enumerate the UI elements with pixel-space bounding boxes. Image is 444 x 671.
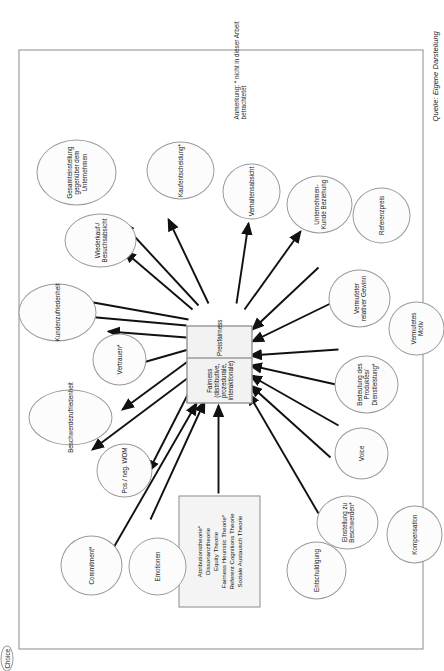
- figure-canvas: Attributionstheorie* Dissonanztheorie Eq…: [0, 0, 444, 671]
- node-kundenzufriedenheit: Kundenzufriedenheit: [18, 283, 96, 341]
- node-referenzpreis: Referenzpreis: [352, 187, 410, 243]
- node-verhaltensabsicht: Verhaltensabsicht: [222, 163, 280, 219]
- node-entschuldigung-main: Entschuldigung: [286, 541, 346, 599]
- rotated-diagram-layer: Attributionstheorie* Dissonanztheorie Eq…: [0, 0, 444, 671]
- theory-box: Attributionstheorie* Dissonanztheorie Eq…: [178, 495, 260, 607]
- figure-note: Anmerkung: * nicht in dieser Arbeit betr…: [232, 0, 246, 119]
- node-emotionen: Emotionen: [128, 537, 186, 595]
- theory-line-2: Equity Theorie: [211, 513, 219, 589]
- node-wom: Pos./ neg. WOM: [96, 443, 152, 497]
- node-choice: Choice: [0, 645, 13, 671]
- node-vermutetes-motiv: Vermutetes Motiv: [388, 301, 444, 355]
- node-wiederkauf-besuchsabsicht: Wiederkauf-/ Besuchsabsicht: [64, 213, 136, 267]
- node-gesamteinstellung: Gesamteinstellung gegenüber dem Unterneh…: [36, 139, 116, 205]
- theory-line-1: Dissonanztheorie: [203, 513, 211, 589]
- node-bedeutung-produkt: Bedeutung des Produktes/ Dienstleistung*: [334, 355, 398, 413]
- center-construct-box: Fairness (distributive, prozedurale, int…: [186, 325, 252, 403]
- theory-line-3: Fairness Heuristic Theorie*: [219, 513, 227, 589]
- node-einstellung-zu-beschwerden: Einstellung zu Beschwerden*: [316, 495, 378, 549]
- node-kaufentscheidung: Kaufentscheidung*: [146, 141, 214, 199]
- center-cell-preisfairness: Preisfairness: [187, 317, 251, 357]
- node-kompensation: Kompensation: [386, 505, 442, 563]
- node-vermuteter-relativer-gewinn: Vermuteter relativer Gewinn: [328, 269, 390, 327]
- node-beschwerdezufriedenheit: Beschwerdezufriedenheit: [28, 389, 112, 445]
- node-vertrauen: Vertrauen*: [92, 333, 146, 385]
- node-unternehmen-kunde-beziehung: Unternehmen-Kunde Beziehung: [286, 175, 352, 233]
- center-cell-fairness: Fairness (distributive, prozedurale, int…: [187, 357, 251, 402]
- node-commitment: Commitment*: [60, 535, 122, 595]
- theory-line-0: Attributionstheorie*: [195, 513, 203, 589]
- theory-line-4: Referent Cognitions Theorie: [227, 513, 235, 589]
- node-voice: Voice: [334, 427, 388, 479]
- theory-line-5: Soziale Austausch Theorie: [235, 513, 243, 589]
- figure-source: Quelle: Eigene Darstellung: [430, 31, 439, 121]
